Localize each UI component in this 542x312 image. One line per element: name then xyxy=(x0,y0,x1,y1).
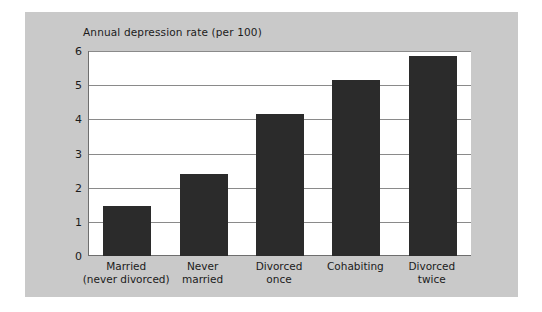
x-tick-label: Married (never divorced) xyxy=(82,260,170,286)
gridline xyxy=(89,51,471,52)
y-tick-label: 6 xyxy=(75,46,82,57)
y-tick-label: 2 xyxy=(75,182,82,193)
x-tick-label: Cohabiting xyxy=(311,260,399,273)
y-tick-label: 3 xyxy=(75,148,82,159)
bar xyxy=(256,114,304,256)
bar xyxy=(332,80,380,256)
plot-area: 0123456 xyxy=(88,51,471,256)
chart-title: Annual depression rate (per 100) xyxy=(83,26,262,38)
bar xyxy=(180,174,228,256)
x-tick-label: Never married xyxy=(158,260,246,286)
y-tick-label: 1 xyxy=(75,216,82,227)
y-tick-label: 5 xyxy=(75,80,82,91)
bar xyxy=(103,206,151,256)
figure: Annual depression rate (per 100) 0123456… xyxy=(0,0,542,312)
bar xyxy=(409,56,457,256)
x-tick-label: Divorced once xyxy=(235,260,323,286)
x-tick-label: Divorced twice xyxy=(388,260,476,286)
y-tick-label: 0 xyxy=(75,251,82,262)
y-tick-label: 4 xyxy=(75,114,82,125)
